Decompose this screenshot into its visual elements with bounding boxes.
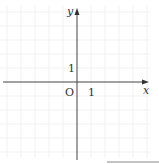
- origin-label: O: [65, 86, 74, 99]
- x-axis-label: x: [143, 84, 150, 97]
- x-tick-label: 1: [88, 86, 95, 99]
- y-axis-label: y: [66, 5, 74, 18]
- coordinate-plane: y x O 1 1: [0, 0, 159, 164]
- y-tick-label: 1: [68, 62, 75, 75]
